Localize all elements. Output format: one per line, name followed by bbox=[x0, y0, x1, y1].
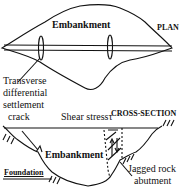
crack-label-line-2: differential bbox=[3, 88, 47, 98]
shear-stress-label: Shear stressτ bbox=[61, 112, 113, 122]
plan-title: PLAN bbox=[157, 24, 179, 32]
foundation-label: Foundation bbox=[4, 169, 44, 177]
crack-label-line-3: settlement bbox=[3, 100, 44, 110]
plan-embankment-label: Embankment bbox=[52, 20, 110, 30]
section-embankment-label: Embankment bbox=[45, 150, 103, 160]
crack-label-line-1: Transverse bbox=[3, 76, 47, 86]
cross-section-title: CROSS-SECTION bbox=[111, 110, 176, 118]
abutment-label-line-1: Jagged rock bbox=[128, 164, 176, 174]
abutment-label-line-2: abutment bbox=[134, 176, 171, 186]
crack-label-line-4: crack bbox=[8, 112, 30, 122]
embankment-crack-diagram: Embankment PLAN Transverse differential … bbox=[0, 0, 193, 189]
